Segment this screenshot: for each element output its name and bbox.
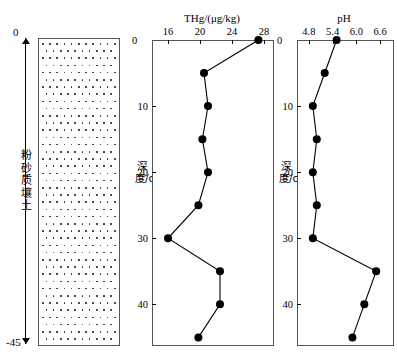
silt-dot [92,101,94,103]
silt-dot [100,331,102,333]
silt-dot [42,302,44,304]
silt-dot [103,237,105,239]
silt-dot [71,201,73,203]
silt-dot [96,309,98,311]
silt-dot [114,173,116,175]
silt-dot [85,331,87,333]
silt-dot [82,79,84,81]
silt-dot [42,201,44,203]
silt-dot [56,101,58,103]
silt-dot [92,259,94,261]
silt-dot [85,86,87,88]
silt-dot [92,331,94,333]
silt-dot [53,108,55,110]
soil-column-panel: 0 -45 粉砂质壤土 [0,0,128,357]
silt-dot [107,245,109,247]
silt-dot [82,137,84,139]
silt-dot [64,302,66,304]
silt-dot [100,144,102,146]
silt-dot [53,281,55,283]
silt-dot [60,137,62,139]
soil-bottom-depth-label: -45 [6,336,21,348]
silt-dot [67,93,69,95]
silt-dot [67,79,69,81]
soil-profile-box [38,38,120,346]
silt-dot [67,324,69,326]
silt-dot [78,43,80,45]
data-point-marker [348,333,356,341]
silt-dot [49,273,51,275]
soil-top-depth-label: 0 [13,26,19,38]
silt-dot [92,129,94,131]
silt-dot [71,43,73,45]
silt-dot [53,194,55,196]
silt-dot [53,237,55,239]
silt-dot [96,151,98,153]
silt-dot [89,295,91,297]
silt-dot [110,266,112,268]
data-point-marker [321,69,329,77]
silt-dot [53,93,55,95]
silt-dot [89,252,91,254]
silt-dot [46,65,48,67]
silt-dot [71,129,73,131]
silt-dot [46,165,48,167]
silt-dot [71,245,73,247]
silt-dot [42,288,44,290]
silt-dot [67,309,69,311]
silt-dot [92,158,94,160]
silt-dot [107,115,109,117]
silt-dot [82,180,84,182]
silt-dot [64,288,66,290]
silt-dot [103,324,105,326]
silt-dot [67,165,69,167]
silt-dot [82,151,84,153]
silt-dot [60,65,62,67]
silt-dot [64,86,66,88]
silt-dot [89,180,91,182]
silt-dot [85,158,87,160]
silt-dot [49,72,51,74]
silt-dot [103,108,105,110]
data-point-marker [198,135,206,143]
silt-dot [56,245,58,247]
silt-dot [89,237,91,239]
silt-dot [96,93,98,95]
silt-dot [64,317,66,319]
silt-dot [92,317,94,319]
silt-dot [107,86,109,88]
silt-dot [74,180,76,182]
silt-dot [49,144,51,146]
silt-dot [49,288,51,290]
silt-dot [74,108,76,110]
silt-dot [100,288,102,290]
silt-dot [67,252,69,254]
silt-dot [71,288,73,290]
silt-dot [74,165,76,167]
silt-dot [96,209,98,211]
silt-dot [110,180,112,182]
silt-dot [78,230,80,232]
silt-dot [71,259,73,261]
silt-dot [85,201,87,203]
silt-dot [60,266,62,268]
figure-root: 0 -45 粉砂质壤土 THg/(μg/kg) (a) 深度/cm 162024… [0,0,397,357]
silt-dot [92,245,94,247]
silt-dot [71,216,73,218]
silt-dot [85,273,87,275]
silt-dot [60,338,62,340]
silt-dot [85,57,87,59]
silt-dot [107,201,109,203]
silt-dot [46,309,48,311]
silt-dot [67,209,69,211]
silt-dot [74,194,76,196]
silt-dot [49,43,51,45]
silt-dot [49,129,51,131]
silt-dot [92,173,94,175]
silt-dot [114,273,116,275]
silt-dot [56,72,58,74]
silt-dot [92,144,94,146]
data-point-marker [309,102,317,110]
silt-dot [85,144,87,146]
silt-dot [85,101,87,103]
